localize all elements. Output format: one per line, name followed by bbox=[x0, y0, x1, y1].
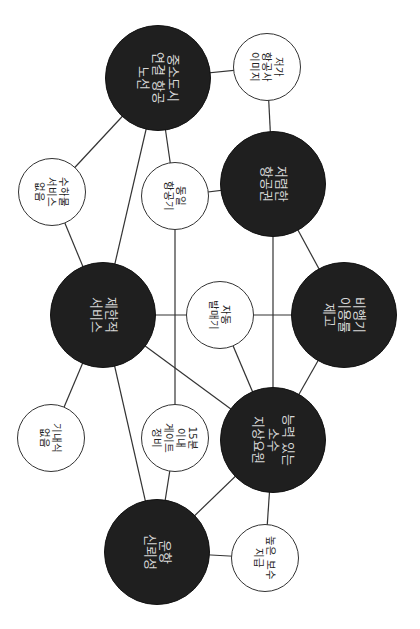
node-label: 중소도시 연결 항공 노선 bbox=[136, 52, 181, 104]
node-n1-core-theme: 중소도시 연결 항공 노선 bbox=[105, 25, 211, 131]
node-label: 운항 신뢰성 bbox=[142, 534, 172, 570]
node-label: 자동 발매기 bbox=[208, 300, 232, 330]
node-n9-activity: 기내식 없음 bbox=[17, 404, 85, 472]
node-label: 기내식 없음 bbox=[39, 423, 63, 453]
node-n11-core-theme: 능력 있는 소수 지상요원 bbox=[220, 387, 326, 493]
node-label: 능력 있는 소수 지상요원 bbox=[251, 414, 296, 466]
node-n3-activity: 수하물 서비스 없음 bbox=[18, 158, 86, 226]
node-n13-activity: 높은 보수 지급 bbox=[231, 524, 299, 592]
node-label: 15분 이내 게이트 정비 bbox=[151, 423, 199, 453]
node-n10-activity: 15분 이내 게이트 정비 bbox=[141, 404, 209, 472]
node-n8-core-theme: 비행기 이용률 제고 bbox=[291, 262, 397, 368]
node-label: 비행기 이용률 제고 bbox=[322, 297, 367, 333]
node-label: 높은 보수 지급 bbox=[253, 536, 277, 579]
node-n6-core-theme: 제한적 서비스 bbox=[50, 262, 156, 368]
node-label: 저렴한 항공권 bbox=[258, 166, 288, 202]
node-n12-core-theme: 운항 신뢰성 bbox=[104, 499, 210, 605]
node-label: 수하물 서비스 없음 bbox=[34, 177, 70, 207]
node-label: 저가 항공사 이미지 bbox=[249, 52, 285, 82]
node-n5-core-theme: 저렴한 항공권 bbox=[220, 131, 326, 237]
node-n7-activity: 자동 발매기 bbox=[186, 281, 254, 349]
node-label: 제한적 서비스 bbox=[88, 297, 118, 333]
node-label: 동일 항공기 bbox=[163, 181, 187, 211]
node-n4-activity: 동일 항공기 bbox=[141, 162, 209, 230]
node-n2-activity: 저가 항공사 이미지 bbox=[233, 33, 301, 101]
activity-system-diagram: 중소도시 연결 항공 노선저가 항공사 이미지수하물 서비스 없음동일 항공기저… bbox=[0, 0, 420, 629]
